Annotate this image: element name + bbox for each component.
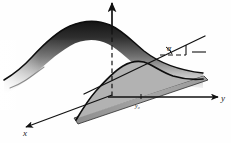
surface-left-fade: [0, 40, 96, 110]
y-axis-label: y: [220, 93, 225, 103]
partial-derivative-diagram: α y x y₀: [0, 0, 231, 143]
figure-container: α y x y₀: [0, 0, 231, 143]
y0-tick-label: y₀: [134, 103, 140, 109]
x-axis-label: x: [22, 128, 27, 138]
